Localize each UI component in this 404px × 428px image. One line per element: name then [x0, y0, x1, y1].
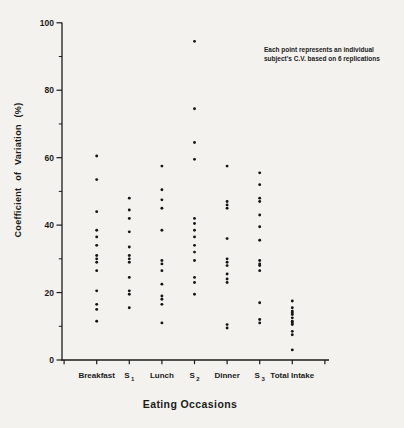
data-point — [128, 261, 131, 264]
y-axis-title: Coefficient of Variation (%) — [13, 20, 27, 320]
data-point — [128, 217, 131, 220]
data-point — [226, 207, 229, 210]
data-point — [160, 298, 163, 301]
data-point — [226, 278, 229, 281]
data-point — [258, 197, 261, 200]
data-point — [95, 235, 98, 238]
x-category-label: Lunch — [150, 371, 174, 380]
data-point — [128, 230, 131, 233]
data-point — [95, 178, 98, 181]
x-category-label: Total Intake — [270, 371, 314, 380]
data-point — [258, 318, 261, 321]
data-point — [226, 273, 229, 276]
data-point — [128, 246, 131, 249]
annotation-line-1: Each point represents an individual — [264, 45, 398, 54]
data-point — [258, 259, 261, 262]
data-point — [193, 141, 196, 144]
data-point — [95, 261, 98, 264]
data-point — [226, 200, 229, 203]
data-point — [193, 244, 196, 247]
data-point — [193, 158, 196, 161]
data-point — [258, 264, 261, 267]
data-point — [226, 257, 229, 260]
data-point — [160, 207, 163, 210]
data-point — [193, 259, 196, 262]
data-point — [128, 257, 131, 260]
annotation-line-2: subject's C.V. based on 6 replications — [264, 54, 398, 63]
data-point — [291, 300, 294, 303]
y-tick-label: 0 — [49, 355, 54, 365]
y-tick-label: 40 — [45, 220, 55, 230]
data-point — [193, 229, 196, 232]
data-point — [226, 281, 229, 284]
annotation-note: Each point represents an individual subj… — [264, 45, 398, 63]
data-point — [160, 165, 163, 168]
data-point — [258, 225, 261, 228]
data-point — [160, 283, 163, 286]
data-point — [128, 254, 131, 257]
data-point — [95, 308, 98, 311]
data-point — [160, 321, 163, 324]
data-point — [193, 235, 196, 238]
data-point — [95, 257, 98, 260]
data-point — [226, 237, 229, 240]
data-point — [95, 289, 98, 292]
data-point — [258, 183, 261, 186]
data-point — [226, 264, 229, 267]
y-tick-label: 100 — [40, 18, 54, 28]
y-tick-label: 20 — [45, 288, 55, 298]
data-point — [128, 293, 131, 296]
data-point — [128, 276, 131, 279]
data-point — [193, 251, 196, 254]
data-point — [193, 40, 196, 43]
data-point — [95, 229, 98, 232]
data-point — [291, 348, 294, 351]
data-point — [193, 293, 196, 296]
data-point — [258, 269, 261, 272]
data-point — [258, 321, 261, 324]
x-category-label: S3 — [255, 371, 266, 383]
data-point — [226, 327, 229, 330]
x-category-label: Breakfast — [78, 371, 115, 380]
data-point — [95, 254, 98, 257]
x-category-label: S1 — [124, 371, 135, 383]
scatter-plot-canvas: 020406080100BreakfastS1LunchS2DinnerS3To… — [0, 0, 404, 428]
data-point — [258, 301, 261, 304]
data-point — [160, 229, 163, 232]
y-tick-label: 80 — [45, 85, 55, 95]
data-point — [193, 276, 196, 279]
data-point — [128, 197, 131, 200]
data-point — [128, 208, 131, 211]
data-point — [193, 222, 196, 225]
data-point — [95, 320, 98, 323]
data-point — [291, 333, 294, 336]
data-point — [193, 217, 196, 220]
data-point — [128, 306, 131, 309]
data-point — [128, 289, 131, 292]
data-point — [291, 316, 294, 319]
data-point — [258, 171, 261, 174]
data-point — [160, 269, 163, 272]
y-tick-label: 60 — [45, 153, 55, 163]
data-point — [226, 203, 229, 206]
data-point — [95, 269, 98, 272]
data-point — [95, 244, 98, 247]
data-point — [160, 259, 163, 262]
data-point — [95, 210, 98, 213]
data-point — [258, 239, 261, 242]
data-point — [291, 330, 294, 333]
x-category-label: Dinner — [214, 371, 239, 380]
data-point — [291, 313, 294, 316]
x-axis-title: Eating Occasions — [90, 398, 290, 410]
data-point — [160, 198, 163, 201]
data-point — [95, 155, 98, 158]
data-point — [226, 165, 229, 168]
data-point — [291, 306, 294, 309]
data-point — [160, 303, 163, 306]
data-point — [160, 188, 163, 191]
data-point — [258, 200, 261, 203]
data-point — [95, 303, 98, 306]
data-point — [193, 107, 196, 110]
data-point — [193, 281, 196, 284]
data-point — [226, 261, 229, 264]
